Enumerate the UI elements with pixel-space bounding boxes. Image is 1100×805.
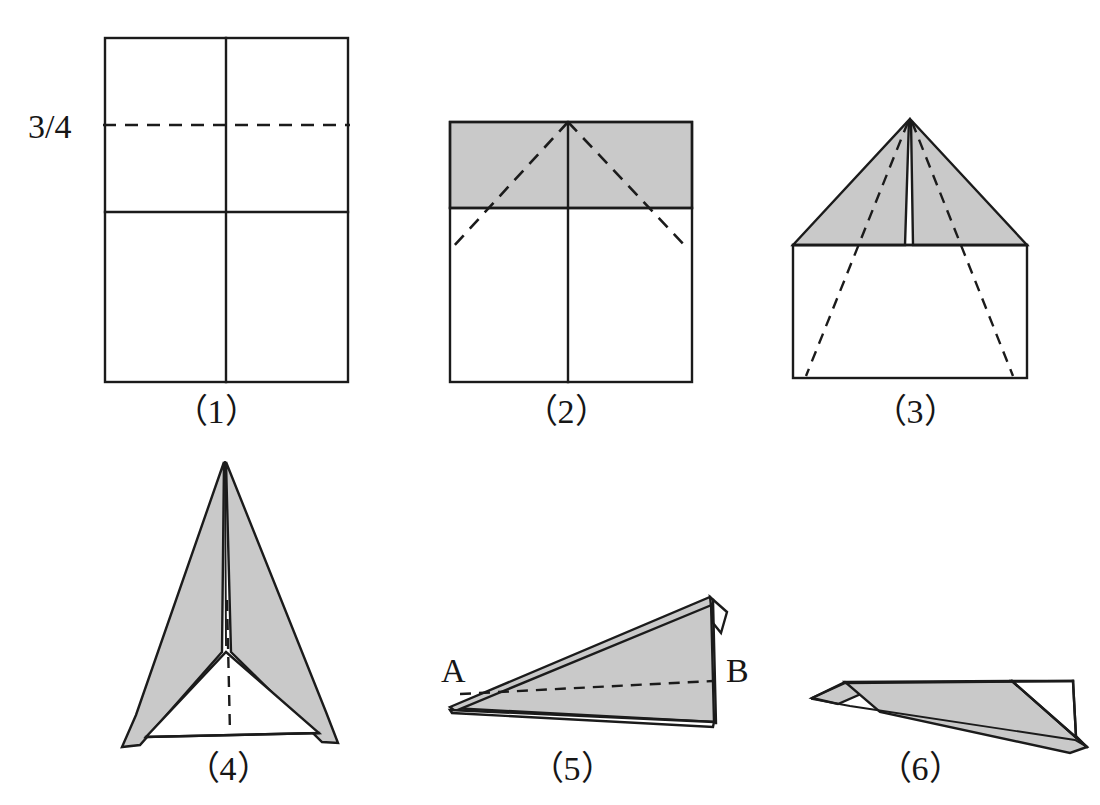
- step3-right-shaded-wing: [911, 120, 1027, 245]
- caption-step-2: （2）: [524, 393, 609, 430]
- caption-step-3: （3）: [873, 393, 958, 430]
- step-5-diagram: A B （5）: [441, 597, 749, 787]
- step-2-diagram: （2）: [450, 122, 692, 430]
- step3-body-rectangle: [793, 245, 1027, 378]
- origami-figure-sheet: 3/4 （1） （2） （3）: [0, 0, 1100, 805]
- origami-diagram-canvas: 3/4 （1） （2） （3）: [0, 0, 1100, 805]
- fraction-label-three-quarters: 3/4: [28, 108, 71, 145]
- point-a-label: A: [441, 652, 466, 689]
- step3-left-shaded-wing: [793, 120, 909, 245]
- caption-step-4: （4）: [186, 750, 271, 787]
- step2-shaded-top-band: [450, 122, 692, 208]
- step4-centre-spine: [225, 462, 226, 645]
- caption-step-6: （6）: [878, 750, 963, 787]
- step-1-diagram: 3/4 （1）: [28, 38, 350, 430]
- step-4-diagram: （4）: [122, 462, 338, 787]
- caption-step-1: （1）: [174, 393, 259, 430]
- point-b-label: B: [726, 652, 749, 689]
- caption-step-5: （5）: [530, 750, 615, 787]
- step-6-diagram: （6）: [812, 681, 1087, 787]
- step-3-diagram: （3）: [793, 120, 1027, 430]
